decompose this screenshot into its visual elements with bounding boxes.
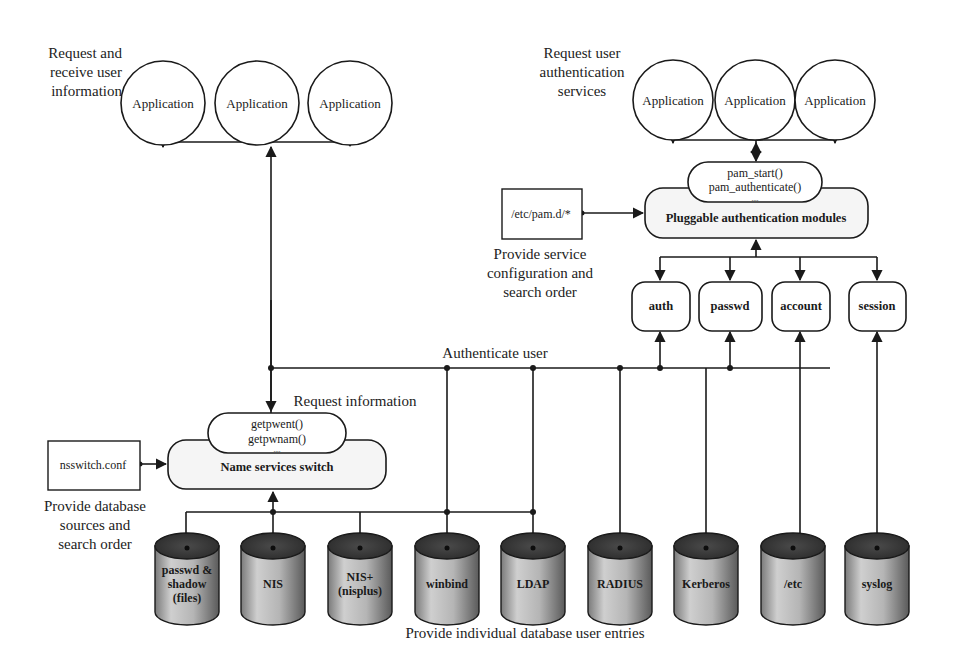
database-label: /etc bbox=[783, 577, 803, 591]
svg-text:nsswitch.conf: nsswitch.conf bbox=[60, 458, 126, 472]
nss-applications: Application Application Application bbox=[121, 61, 392, 145]
nss-caption: Request and receive user information bbox=[40, 44, 122, 101]
svg-text:getpwent(): getpwent() bbox=[251, 417, 303, 431]
svg-text:getpwnam(): getpwnam() bbox=[248, 432, 306, 446]
application-node: Application bbox=[215, 61, 299, 145]
svg-text:Name services switch: Name services switch bbox=[220, 460, 333, 474]
database-label: LDAP bbox=[517, 577, 550, 591]
application-node: Application bbox=[795, 60, 875, 140]
module-auth: auth bbox=[632, 282, 690, 331]
svg-text:Application: Application bbox=[642, 93, 704, 108]
svg-text:....: .... bbox=[274, 446, 281, 454]
pam-module-box: pam_start() pam_authenticate() .... Plug… bbox=[645, 162, 868, 238]
database-label: passwd & bbox=[162, 563, 212, 577]
module-session: session bbox=[849, 282, 906, 331]
application-node: Application bbox=[308, 61, 392, 145]
database-cylinder: /etc bbox=[761, 533, 825, 625]
svg-text:Application: Application bbox=[724, 93, 786, 108]
svg-text:Application: Application bbox=[132, 96, 194, 111]
database-cylinder: syslog bbox=[845, 533, 909, 625]
nss-config-caption: Provide database sources and search orde… bbox=[30, 497, 160, 554]
nss-config-file-box: nsswitch.conf bbox=[48, 441, 140, 490]
database-label: shadow bbox=[168, 577, 207, 591]
database-label: winbind bbox=[426, 577, 468, 591]
authenticate-user-label: Authenticate user bbox=[425, 344, 565, 363]
nss-pam-architecture-diagram: Application Application Application Appl… bbox=[0, 0, 959, 672]
svg-text:session: session bbox=[859, 299, 896, 313]
application-node: Application bbox=[715, 60, 795, 140]
application-node: Application bbox=[121, 61, 205, 145]
database-label: (files) bbox=[173, 591, 202, 605]
database-label: NIS bbox=[263, 577, 283, 591]
svg-text:Pluggable authentication modul: Pluggable authentication modules bbox=[666, 211, 847, 225]
database-label: Kerberos bbox=[682, 577, 730, 591]
svg-text:pam_authenticate(): pam_authenticate() bbox=[709, 180, 802, 194]
application-node: Application bbox=[633, 60, 713, 140]
database-cylinder: RADIUS bbox=[588, 533, 652, 625]
pam-config-file-box: /etc/pam.d/* bbox=[502, 189, 582, 239]
database-label: (nisplus) bbox=[338, 584, 382, 598]
svg-text:Application: Application bbox=[319, 96, 381, 111]
database-cylinder: Kerberos bbox=[674, 533, 738, 625]
database-cylinders: passwd &shadow(files)NISNIS+(nisplus)win… bbox=[155, 533, 909, 625]
pam-caption: Request user authentication services bbox=[530, 44, 634, 101]
database-label: syslog bbox=[862, 577, 893, 591]
database-cylinder: LDAP bbox=[501, 533, 565, 625]
svg-text:account: account bbox=[780, 299, 823, 313]
database-cylinder: winbind bbox=[415, 533, 479, 625]
pam-module-types: auth passwd account session bbox=[632, 282, 906, 331]
svg-text:passwd: passwd bbox=[711, 299, 750, 313]
svg-text:Application: Application bbox=[804, 93, 866, 108]
request-information-label: Request information bbox=[285, 392, 425, 411]
svg-text:pam_start(): pam_start() bbox=[727, 166, 782, 180]
database-cylinder: passwd &shadow(files) bbox=[155, 533, 219, 625]
module-passwd: passwd bbox=[699, 282, 762, 331]
module-account: account bbox=[772, 282, 830, 331]
pam-config-caption: Provide service configuration and search… bbox=[470, 245, 610, 302]
bottom-caption: Provide individual database user entries bbox=[380, 624, 670, 643]
database-label: NIS+ bbox=[347, 570, 374, 584]
database-label: RADIUS bbox=[597, 577, 643, 591]
database-cylinder: NIS+(nisplus) bbox=[328, 533, 392, 625]
database-cylinder: NIS bbox=[241, 533, 305, 625]
svg-text:Application: Application bbox=[226, 96, 288, 111]
svg-text:auth: auth bbox=[649, 299, 673, 313]
svg-text:/etc/pam.d/*: /etc/pam.d/* bbox=[511, 207, 571, 221]
svg-text:....: .... bbox=[752, 195, 759, 203]
name-services-switch-box: getpwent() getpwnam() .... Name services… bbox=[168, 413, 386, 489]
pam-applications: Application Application Application bbox=[633, 60, 875, 140]
